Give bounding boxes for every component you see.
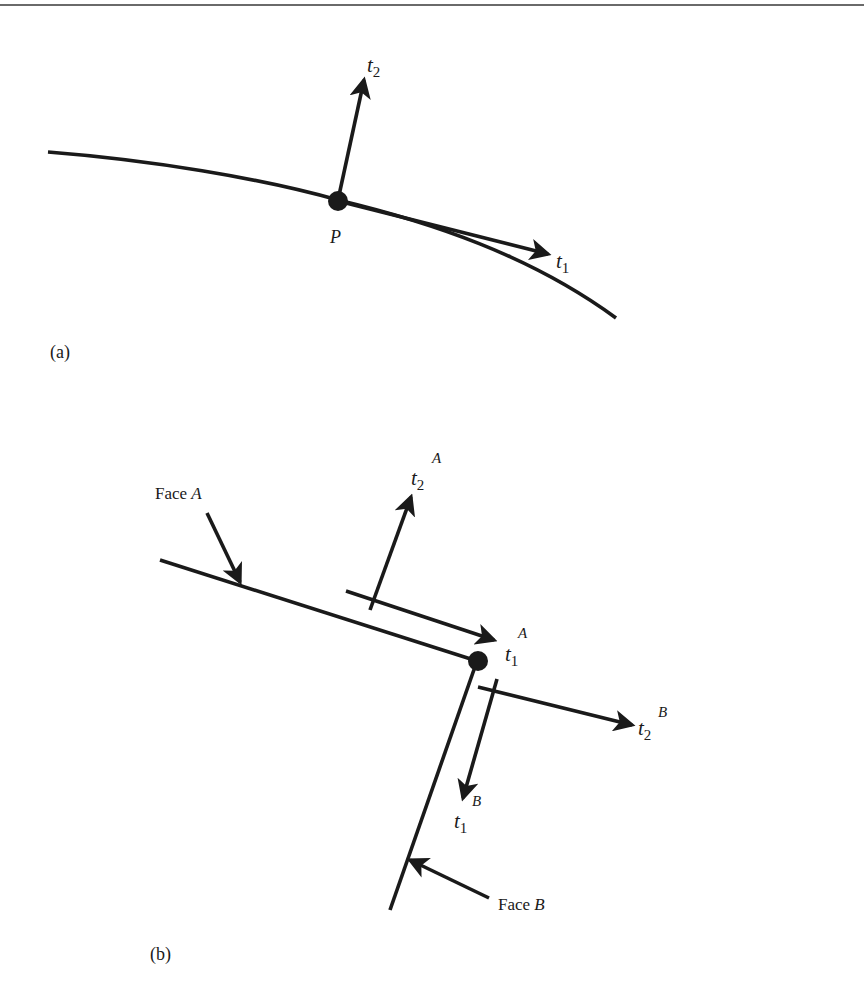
face-a-label: Face A — [155, 484, 202, 503]
face-b-label: Face B — [498, 895, 545, 914]
panel-a: P t1 t2 (a) — [48, 53, 616, 363]
caption-a: (a) — [50, 342, 70, 363]
label-t1a: t1 — [505, 642, 518, 669]
face-b-pointer-arrow — [410, 860, 489, 898]
tangent-vectors-figure: P t1 t2 (a) Face A Face B — [0, 0, 864, 1004]
label-t1: t1 — [556, 249, 569, 276]
label-t2b: t2 — [638, 716, 651, 743]
vector-t1a-arrow — [346, 591, 494, 640]
label-t2a-superscript: A — [431, 450, 442, 466]
vector-t1-arrow — [338, 201, 548, 254]
point-p — [328, 191, 348, 211]
label-t2b-superscript: B — [658, 704, 667, 720]
face-a-pointer-arrow — [207, 513, 240, 582]
point-p-label: P — [329, 227, 341, 247]
vector-t2a-arrow — [370, 497, 411, 610]
label-t1b-superscript: B — [472, 793, 481, 809]
panel-b: Face A Face B t2 A t1 A t2 B t1 B (b) — [150, 450, 667, 965]
caption-b: (b) — [150, 944, 171, 965]
label-t1b: t1 — [454, 809, 467, 836]
vector-t2-arrow — [338, 80, 364, 200]
vector-t1b-arrow — [463, 679, 497, 798]
label-t1a-superscript: A — [517, 625, 528, 641]
face-a-edge — [160, 560, 477, 661]
vector-t2b-arrow — [478, 687, 632, 725]
corner-point — [468, 651, 488, 671]
label-t2: t2 — [367, 53, 380, 80]
label-t2a: t2 — [411, 466, 424, 493]
